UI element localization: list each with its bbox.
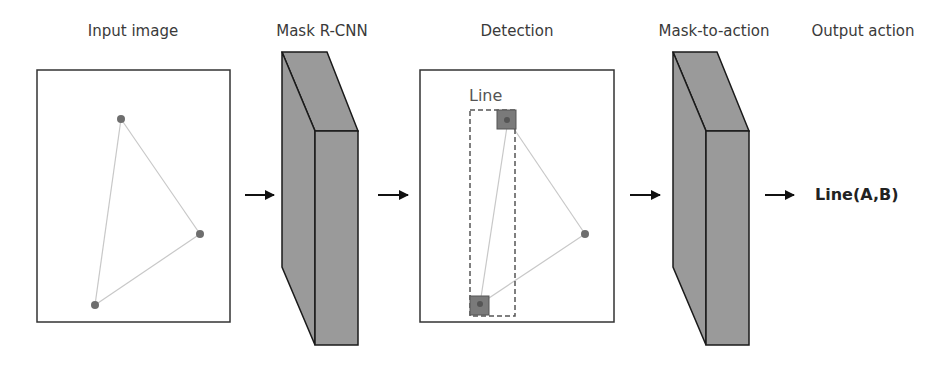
input-image-panel bbox=[37, 70, 230, 322]
point-a-icon bbox=[117, 115, 125, 123]
point-c-icon bbox=[196, 230, 204, 238]
output-action-text: Line(A,B) bbox=[815, 185, 899, 204]
detection-box-label: Line bbox=[469, 86, 502, 105]
pipeline-diagram bbox=[0, 0, 951, 366]
point-b-icon bbox=[91, 301, 99, 309]
detection-panel bbox=[420, 70, 614, 322]
mask-rcnn-block-icon bbox=[282, 52, 358, 345]
point-c-icon bbox=[581, 230, 589, 238]
mask-to-action-block-icon bbox=[673, 52, 749, 345]
